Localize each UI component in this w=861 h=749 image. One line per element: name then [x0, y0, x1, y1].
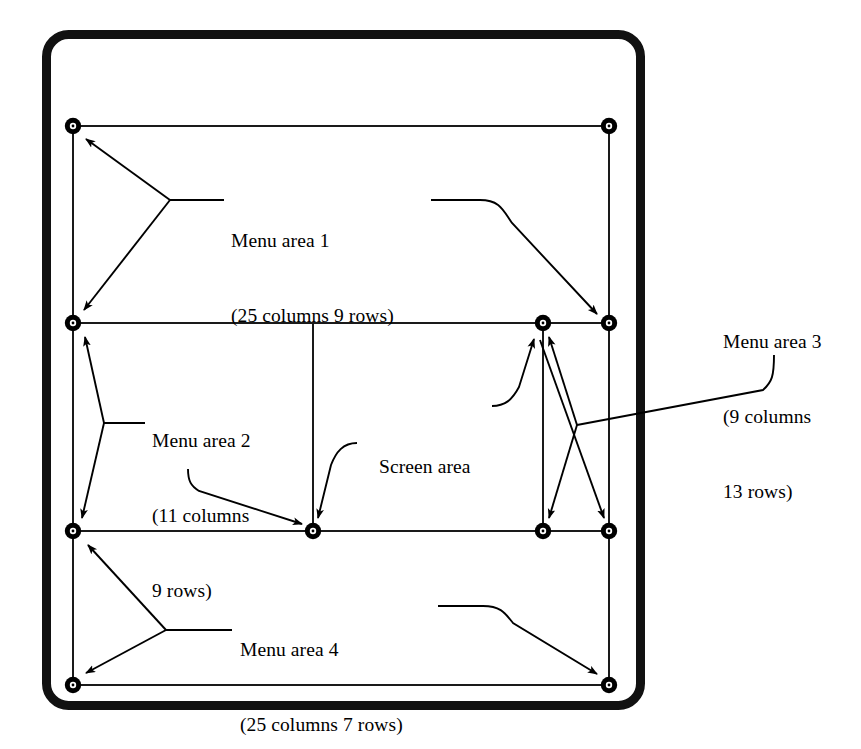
- label-menu-area-4: Menu area 4 (25 columns 7 rows): [240, 587, 403, 749]
- leader-arrow-menu-area-4-to-bottom-right: [438, 606, 597, 674]
- label-menu-area-4-title: Menu area 4: [240, 637, 403, 662]
- diagram-canvas: Menu area 1 (25 columns 9 rows) Menu are…: [0, 0, 861, 749]
- label-menu-area-1-spec: (25 columns 9 rows): [231, 303, 394, 328]
- leader-arrow-menu-area-3-to-low-right: [540, 340, 604, 518]
- label-menu-area-3: Menu area 3 (9 columns 13 rows): [723, 279, 822, 554]
- label-menu-area-3-spec-line-1: (9 columns: [723, 404, 822, 429]
- leader-arrow-menu-area-3-to-mid-inner-right: [549, 337, 577, 425]
- label-menu-area-1: Menu area 1 (25 columns 9 rows): [231, 178, 394, 378]
- leader-arrow-menu-area-2-to-mid-left: [85, 337, 104, 423]
- grid-node-marker: [65, 523, 81, 539]
- leader-arrow-menu-area-2-to-low-left: [82, 423, 104, 518]
- leader-screen-area: [318, 443, 357, 518]
- label-menu-area-2-spec-line-2: 9 rows): [152, 578, 251, 603]
- leader-stem-menu-area-3-secondary: [492, 339, 534, 406]
- label-screen-area: Screen area: [379, 404, 471, 529]
- label-menu-area-2-title: Menu area 2: [152, 428, 251, 453]
- leader-arrow-screen-area-to-low-center: [318, 443, 357, 518]
- grid-node-marker: [601, 315, 617, 331]
- leader-arrow-menu-area-1-to-top-left: [86, 139, 170, 200]
- grid-node-marker: [601, 523, 617, 539]
- grid-node-marker: [65, 118, 81, 134]
- grid-node-marker: [535, 523, 551, 539]
- grid-node-marker: [305, 523, 321, 539]
- label-menu-area-3-spec-line-2: 13 rows): [723, 479, 822, 504]
- leader-arrow-menu-area-1-to-top-right: [431, 200, 597, 314]
- label-menu-area-4-spec: (25 columns 7 rows): [240, 712, 403, 737]
- label-menu-area-3-title: Menu area 3: [723, 329, 822, 354]
- grid-node-marker: [65, 315, 81, 331]
- leader-arrow-menu-area-3-to-low-inner-right: [549, 425, 577, 518]
- label-menu-area-1-title: Menu area 1: [231, 228, 394, 253]
- grid-node-marker: [65, 677, 81, 693]
- grid-node-marker: [535, 315, 551, 331]
- grid-node-marker: [601, 677, 617, 693]
- grid-node-marker: [601, 118, 617, 134]
- label-screen-area-title: Screen area: [379, 454, 471, 479]
- leader-arrow-menu-area-1-to-mid-left: [84, 200, 170, 310]
- label-menu-area-2-spec-line-1: (11 columns: [152, 503, 251, 528]
- label-menu-area-2: Menu area 2 (11 columns 9 rows): [152, 378, 251, 653]
